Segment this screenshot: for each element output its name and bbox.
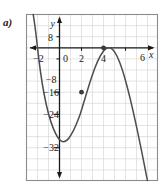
graph-figure: a) xyxy=(0,0,168,187)
coordinate-plane: −2 0 2 4 6 8 −8 −16 −24 −32 y x xyxy=(0,0,168,187)
x-tick-label-2: 2 xyxy=(79,53,84,64)
y-tick-label-neg24: −24 xyxy=(43,109,59,120)
y-tick-label-neg8: −8 xyxy=(46,74,57,85)
x-tick-label-6: 6 xyxy=(140,52,145,63)
marked-point-2-neg16 xyxy=(79,90,84,95)
y-tick-label-8: 8 xyxy=(48,32,53,43)
x-tick-label-neg2: −2 xyxy=(33,53,44,64)
y-axis-label: y xyxy=(50,18,56,29)
x-tick-label-4: 4 xyxy=(101,53,106,64)
marked-point-4-0 xyxy=(101,45,106,50)
x-tick-label-0: 0 xyxy=(63,53,68,64)
y-tick-label-neg32: −32 xyxy=(43,142,59,153)
x-axis-label: x xyxy=(148,49,154,60)
y-tick-label-neg16: −16 xyxy=(43,87,59,98)
